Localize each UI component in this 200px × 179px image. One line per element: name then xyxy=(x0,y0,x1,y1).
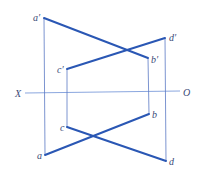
projector-d xyxy=(165,38,166,161)
projection-diagram: a′ c′ b′ d′ X O a c b d xyxy=(0,0,200,179)
projector-a xyxy=(44,18,45,155)
label-d-prime: d′ xyxy=(169,32,177,43)
label-a: a xyxy=(37,150,42,161)
xo-axis-line xyxy=(25,91,180,93)
label-axis-o: O xyxy=(183,87,190,98)
label-axis-x: X xyxy=(14,88,22,99)
label-a-prime: a′ xyxy=(33,12,41,23)
segment-a-prime-b-prime xyxy=(44,18,148,58)
label-b-prime: b′ xyxy=(151,54,159,65)
segment-c-d xyxy=(67,127,166,161)
label-d: d xyxy=(169,156,175,167)
label-c: c xyxy=(60,122,65,133)
label-b: b xyxy=(152,109,157,120)
label-c-prime: c′ xyxy=(57,64,64,75)
projector-b xyxy=(148,58,149,114)
